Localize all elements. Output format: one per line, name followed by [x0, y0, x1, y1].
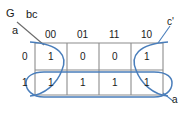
column-variable-label: bc: [26, 9, 38, 20]
row-header-0: 0: [22, 52, 28, 62]
kmap-title: G: [6, 8, 15, 19]
karnaugh-map-figure: G bc a 00 01 11 10 0 1 1 0 0 1 1 1 1 1 c…: [0, 0, 183, 113]
cell-r0-c00: 1: [48, 52, 54, 62]
cell-r1-c10: 1: [144, 78, 150, 88]
column-header-11: 11: [109, 30, 119, 40]
cell-r0-c10: 1: [144, 52, 150, 62]
row-variable-label: a: [12, 25, 18, 36]
group-label-a: a: [172, 95, 178, 105]
group-leader-c-prime: [158, 26, 170, 43]
group-label-c-prime: c': [167, 17, 174, 27]
column-header-00: 00: [45, 30, 56, 40]
row-header-1: 1: [22, 78, 28, 88]
column-header-01: 01: [77, 30, 88, 40]
cell-r1-c01: 1: [80, 78, 86, 88]
cell-r0-c01: 0: [80, 52, 86, 62]
cell-r1-c00: 1: [48, 78, 54, 88]
cell-r0-c11: 0: [112, 52, 118, 62]
cell-r1-c11: 1: [112, 78, 118, 88]
column-header-10: 10: [141, 30, 152, 40]
